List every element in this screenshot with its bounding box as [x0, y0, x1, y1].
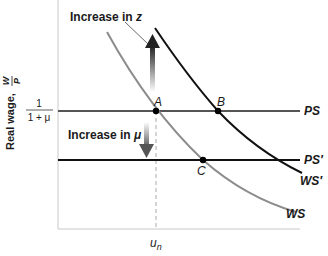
point-a-label: A: [153, 95, 162, 109]
point-c: [200, 157, 206, 163]
y-tick-denominator: 1 + μ: [28, 112, 51, 123]
wage-price-setting-diagram: A B C PS PS′ WS′ WS Increase in z Increa…: [0, 0, 328, 256]
y-axis-label-text: Real wage,: [4, 93, 16, 150]
ps-prime-label: PS′: [304, 153, 324, 167]
point-c-label: C: [197, 164, 206, 178]
y-tick-markup-ratio: 1 1 + μ: [26, 98, 53, 123]
increase-mu-label: Increase in μ: [68, 128, 142, 142]
ws-curve: [107, 32, 296, 212]
x-tick-natural-unemployment: un: [150, 236, 162, 252]
ws-prime-curve: [155, 28, 302, 173]
increase-z-arrow-shaft: [150, 46, 155, 92]
point-b-label: B: [217, 95, 225, 109]
ws-prime-label: WS′: [300, 174, 323, 188]
y-axis-fraction-num: W: [1, 75, 11, 85]
increase-mu-arrow-head: [139, 144, 154, 158]
increase-z-leader: [125, 22, 148, 44]
ps-label: PS: [304, 104, 320, 118]
ws-label: WS: [286, 207, 305, 221]
increase-z-arrow-head: [145, 34, 160, 48]
y-axis-fraction-den: P: [12, 77, 22, 84]
increase-z-label: Increase in z: [70, 10, 142, 24]
y-axis-label: Real wage, W P: [1, 75, 22, 150]
y-tick-numerator: 1: [36, 98, 42, 109]
